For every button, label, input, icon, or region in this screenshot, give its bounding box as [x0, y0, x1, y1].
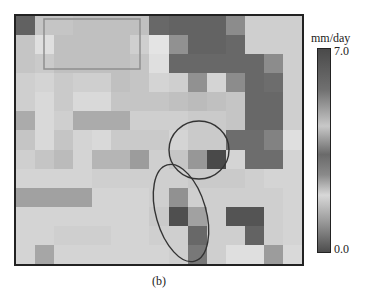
heatmap-cell	[169, 188, 188, 207]
heatmap-cell	[169, 130, 188, 149]
heatmap-cell	[73, 226, 92, 245]
heatmap-cell	[188, 73, 207, 92]
heatmap-cell	[35, 226, 54, 245]
heatmap-cell	[54, 111, 73, 130]
heatmap-cell	[54, 54, 73, 73]
heatmap-cell	[16, 35, 35, 54]
heatmap-cell	[245, 73, 264, 92]
heatmap-cell	[245, 111, 264, 130]
heatmap-cell	[54, 207, 73, 226]
heatmap-cell	[207, 111, 226, 130]
heatmap-cell	[54, 92, 73, 111]
heatmap-cell	[207, 226, 226, 245]
heatmap-cell	[149, 245, 168, 264]
heatmap-cell	[207, 207, 226, 226]
heatmap-cell	[16, 130, 35, 149]
heatmap-cell	[207, 16, 226, 35]
heatmap-cell	[130, 169, 149, 188]
heatmap-cell	[169, 245, 188, 264]
heatmap-cell	[264, 130, 283, 149]
heatmap-cell	[169, 111, 188, 130]
heatmap-cell	[264, 35, 283, 54]
heatmap-cell	[149, 150, 168, 169]
heatmap-cell	[111, 54, 130, 73]
heatmap-cell	[35, 188, 54, 207]
heatmap-cell	[130, 226, 149, 245]
heatmap-cell	[149, 35, 168, 54]
heatmap-cell	[188, 16, 207, 35]
heatmap-cell	[283, 188, 302, 207]
heatmap-cell	[245, 92, 264, 111]
heatmap-cell	[73, 54, 92, 73]
heatmap-cell	[149, 188, 168, 207]
heatmap-cell	[283, 245, 302, 264]
heatmap-cell	[111, 73, 130, 92]
heatmap-cell	[73, 73, 92, 92]
heatmap-cell	[169, 169, 188, 188]
heatmap-cell	[264, 188, 283, 207]
heatmap-cell	[73, 92, 92, 111]
heatmap-cell	[92, 169, 111, 188]
heatmap-cell	[264, 73, 283, 92]
heatmap-cell	[111, 207, 130, 226]
heatmap-cell	[35, 16, 54, 35]
colorbar	[317, 48, 331, 253]
heatmap-grid	[16, 16, 302, 264]
heatmap-cell	[188, 130, 207, 149]
heatmap-cell	[226, 92, 245, 111]
heatmap-cell	[245, 54, 264, 73]
heatmap-cell	[169, 35, 188, 54]
heatmap-cell	[245, 150, 264, 169]
heatmap-cell	[111, 150, 130, 169]
heatmap-cell	[169, 73, 188, 92]
heatmap-cell	[188, 226, 207, 245]
heatmap-cell	[111, 111, 130, 130]
heatmap-cell	[188, 54, 207, 73]
heatmap-cell	[264, 169, 283, 188]
heatmap-cell	[73, 169, 92, 188]
heatmap-cell	[16, 188, 35, 207]
heatmap-cell	[35, 54, 54, 73]
heatmap-cell	[92, 16, 111, 35]
heatmap-cell	[111, 35, 130, 54]
heatmap-cell	[245, 35, 264, 54]
heatmap-cell	[16, 92, 35, 111]
heatmap-cell	[207, 35, 226, 54]
heatmap-cell	[130, 150, 149, 169]
heatmap-cell	[92, 54, 111, 73]
heatmap-cell	[35, 130, 54, 149]
heatmap-cell	[245, 188, 264, 207]
heatmap-cell	[264, 111, 283, 130]
heatmap-cell	[226, 169, 245, 188]
heatmap-cell	[73, 16, 92, 35]
heatmap-cell	[92, 226, 111, 245]
heatmap-cell	[35, 92, 54, 111]
heatmap-cell	[111, 92, 130, 111]
heatmap-cell	[111, 245, 130, 264]
colorbar-min-label: 0.0	[334, 242, 349, 257]
heatmap-cell	[264, 245, 283, 264]
colorbar-max-label: 7.0	[334, 44, 349, 59]
heatmap-cell	[226, 130, 245, 149]
heatmap-cell	[35, 111, 54, 130]
heatmap-cell	[264, 92, 283, 111]
heatmap-cell	[149, 169, 168, 188]
heatmap-cell	[283, 92, 302, 111]
heatmap-cell	[245, 226, 264, 245]
heatmap-cell	[245, 245, 264, 264]
heatmap-cell	[92, 245, 111, 264]
heatmap-cell	[73, 188, 92, 207]
heatmap-cell	[130, 245, 149, 264]
heatmap-cell	[226, 54, 245, 73]
heatmap-cell	[149, 16, 168, 35]
heatmap-cell	[188, 111, 207, 130]
heatmap-cell	[283, 207, 302, 226]
heatmap-cell	[92, 130, 111, 149]
heatmap-cell	[264, 226, 283, 245]
heatmap-cell	[130, 130, 149, 149]
heatmap-cell	[226, 35, 245, 54]
heatmap-cell	[16, 207, 35, 226]
heatmap-cell	[54, 169, 73, 188]
heatmap-cell	[188, 92, 207, 111]
heatmap-cell	[92, 73, 111, 92]
